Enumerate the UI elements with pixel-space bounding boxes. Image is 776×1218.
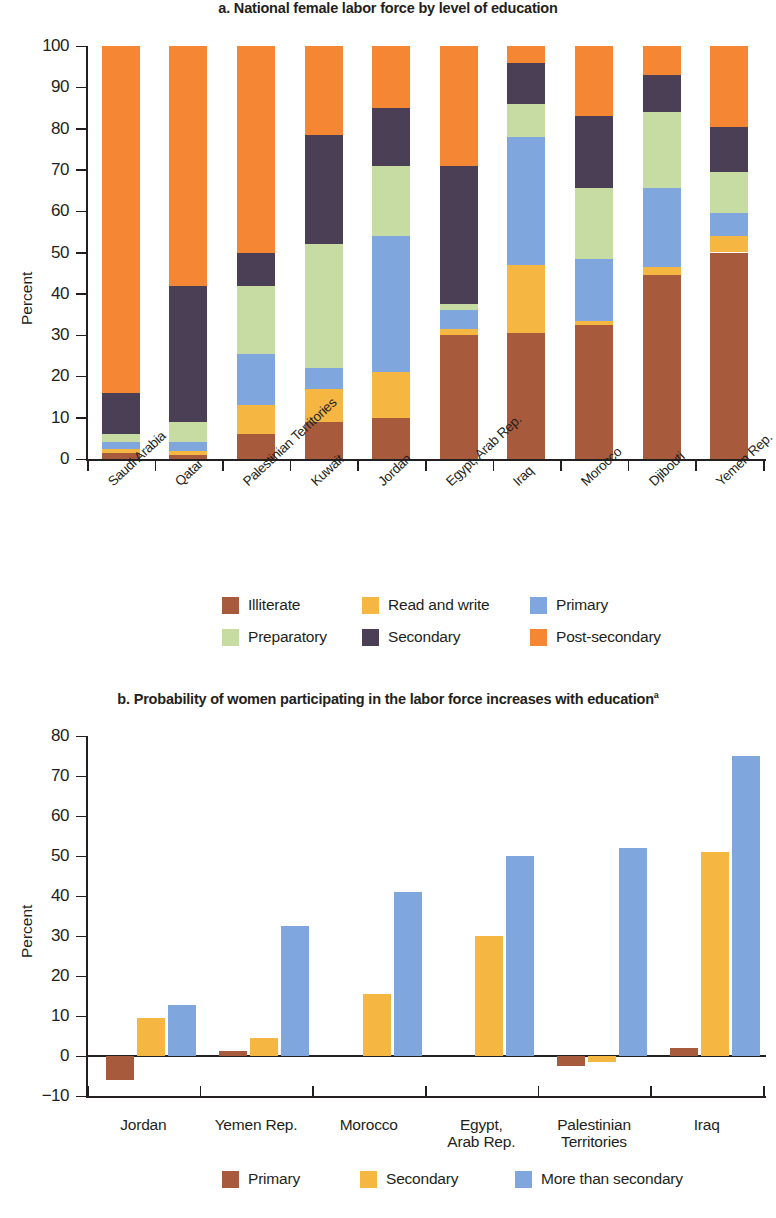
bar-segment-read-and-write — [440, 329, 478, 335]
legend-item-preparatory: Preparatory — [222, 628, 327, 646]
grouped-bar-secondary — [137, 1018, 165, 1056]
bar-segment-post-secondary — [507, 46, 545, 63]
bar-segment-preparatory — [710, 172, 748, 213]
bar-segment-primary — [372, 236, 410, 372]
stacked-bar — [575, 46, 613, 459]
panel-a-ytick-label: 0 — [17, 450, 69, 467]
bar-segment-secondary — [507, 63, 545, 104]
bar-segment-primary — [440, 310, 478, 329]
panel-b-ytick-label: 0 — [13, 1047, 69, 1064]
legend-swatch-secondary-icon — [362, 629, 379, 646]
bar-segment-illiterate — [169, 455, 207, 459]
legend-item-post-secondary: Post-secondary — [530, 628, 661, 646]
panel-a-ytick-mark — [76, 293, 87, 295]
grouped-bar-secondary — [588, 1056, 616, 1062]
bar-segment-secondary — [102, 393, 140, 434]
legend-swatch-read-and-write-icon — [362, 597, 379, 614]
panel-a-ytick-mark — [76, 169, 87, 171]
grouped-bar-more-than-secondary — [732, 756, 760, 1056]
bar-segment-illiterate — [575, 325, 613, 459]
panel-a-ytick-label: 90 — [17, 78, 69, 95]
bar-segment-illiterate — [440, 335, 478, 459]
legend-item-secondary: Secondary — [362, 628, 460, 646]
panel-b-ytick-mark — [76, 736, 87, 738]
panel-b-ytick-mark — [76, 776, 87, 778]
bar-segment-primary — [507, 137, 545, 265]
grouped-bar-primary — [557, 1056, 585, 1066]
bar-segment-read-and-write — [237, 405, 275, 434]
legend-label: Read and write — [388, 596, 489, 614]
grouped-bar-more-than-secondary — [394, 892, 422, 1056]
panel-b-ytick-mark — [76, 1056, 87, 1058]
panel-b-legend: PrimarySecondaryMore than secondary — [0, 1170, 776, 1204]
panel-b-ytick-label: 60 — [13, 807, 69, 824]
panel-a-xtick-mark — [695, 460, 697, 471]
panel-a-ytick-label: 80 — [17, 120, 69, 137]
bar-segment-post-secondary — [710, 46, 748, 127]
grouped-bar-secondary — [475, 936, 503, 1056]
panel-a-xtick-mark — [290, 460, 292, 471]
panel-b-title: b. Probability of women participating in… — [0, 690, 776, 707]
legend-item-secondary: Secondary — [360, 1170, 458, 1188]
panel-b-xtick-mark — [312, 1086, 314, 1097]
panel-a-ytick-mark — [76, 252, 87, 254]
bar-segment-secondary — [372, 108, 410, 166]
grouped-bar-secondary — [250, 1038, 278, 1056]
panel-b-xtick-mark — [425, 1086, 427, 1097]
panel-a-xtick-label: Qatar — [172, 456, 206, 489]
legend-label: Primary — [556, 596, 608, 614]
bar-segment-primary — [643, 188, 681, 266]
legend-label: Primary — [248, 1170, 300, 1188]
legend-label: Illiterate — [248, 596, 300, 614]
panel-b-xtick-mark — [87, 1086, 89, 1097]
bar-segment-illiterate — [507, 333, 545, 459]
panel-b-xtick-mark — [200, 1086, 202, 1097]
panel-b-ytick-label: 40 — [13, 887, 69, 904]
panel-b-title-text: b. Probability of women participating in… — [117, 691, 654, 707]
panel-b-xtick-label: Jordan — [79, 1116, 207, 1133]
panel-b-ytick-mark — [76, 856, 87, 858]
panel-a-ytick-label: 10 — [17, 409, 69, 426]
bar-segment-post-secondary — [440, 46, 478, 166]
bar-segment-post-secondary — [102, 46, 140, 393]
legend-item-read-and-write: Read and write — [362, 596, 489, 614]
legend-label: Preparatory — [248, 628, 327, 646]
stacked-bar — [102, 46, 140, 459]
panel-a-legend: IlliterateRead and writePrimaryPreparato… — [0, 596, 776, 656]
panel-a-ytick-label: 50 — [17, 244, 69, 261]
panel-b-ytick-mark — [76, 896, 87, 898]
bar-segment-secondary — [305, 135, 343, 244]
legend-swatch-post-secondary-icon — [530, 629, 547, 646]
bar-segment-secondary — [440, 166, 478, 304]
legend-label: Secondary — [386, 1170, 458, 1188]
bar-segment-secondary — [169, 286, 207, 422]
bar-segment-read-and-write — [575, 321, 613, 325]
panel-a-ytick-label: 40 — [17, 285, 69, 302]
bar-segment-secondary — [643, 75, 681, 112]
panel-a-xtick-mark — [87, 460, 89, 471]
bar-segment-preparatory — [575, 188, 613, 258]
panel-a-xtick-mark — [357, 460, 359, 471]
legend-label: Post-secondary — [556, 628, 661, 646]
panel-a-ytick-label: 30 — [17, 326, 69, 343]
stacked-bar — [237, 46, 275, 459]
panel-a-ytick-mark — [76, 87, 87, 89]
bar-segment-secondary — [237, 253, 275, 286]
legend-swatch-read-and-write-icon — [360, 1171, 377, 1188]
panel-b-xtick-mark — [538, 1086, 540, 1097]
grouped-bar-more-than-secondary — [168, 1005, 196, 1056]
panel-b-xtick-mark — [650, 1086, 652, 1097]
legend-label: Secondary — [388, 628, 460, 646]
bar-segment-post-secondary — [169, 46, 207, 286]
bar-segment-illiterate — [643, 275, 681, 459]
grouped-bar-more-than-secondary — [619, 848, 647, 1056]
grouped-bar-primary — [670, 1048, 698, 1056]
panel-b-xtick-label: Morocco — [305, 1116, 433, 1133]
panel-a-ytick-mark — [76, 376, 87, 378]
stacked-bar — [643, 46, 681, 459]
panel-a-xtick-mark — [155, 460, 157, 471]
panel-a-ytick-label: 70 — [17, 161, 69, 178]
panel-b-y-axis — [86, 736, 88, 1096]
panel-b-ytick-mark — [76, 1096, 87, 1098]
panel-a-ytick-mark — [76, 211, 87, 213]
